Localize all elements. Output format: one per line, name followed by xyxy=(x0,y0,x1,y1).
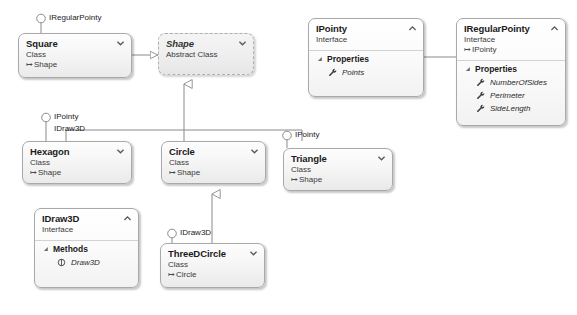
inherits-arrow-icon: ↦ xyxy=(291,175,298,185)
class-box-hexagon-base-label: Shape xyxy=(38,168,61,177)
chevron-up-icon[interactable] xyxy=(123,214,132,223)
interface-box-iregularpointy-title: IRegularPointy xyxy=(464,23,559,34)
class-box-threedcircle-base-label: Circle xyxy=(176,270,196,279)
interface-box-idraw3d-header: IDraw3D Interface xyxy=(35,209,138,240)
class-box-shape-kind: Abstract Class xyxy=(166,50,247,60)
member-row[interactable]: NumberOfSides xyxy=(457,76,565,89)
lollipop-hexagon-ipointy xyxy=(42,113,51,141)
interface-box-ipointy-title: IPointy xyxy=(316,23,417,34)
member-name: SideLength xyxy=(490,103,530,114)
class-box-triangle[interactable]: Triangle Class ↦Shape xyxy=(283,148,393,191)
class-box-square-base-label: Shape xyxy=(34,60,57,69)
class-box-square-title: Square xyxy=(26,38,125,49)
class-box-circle-title: Circle xyxy=(169,146,259,157)
class-box-hexagon[interactable]: Hexagon Class ↦Shape xyxy=(22,141,132,184)
class-box-hexagon-header: Hexagon Class ↦Shape xyxy=(23,142,131,183)
member-row[interactable]: Draw3D xyxy=(35,256,138,269)
class-box-circle-kind: Class xyxy=(169,158,259,168)
interface-box-ipointy[interactable]: IPointy Interface Properties Points xyxy=(308,18,424,97)
group-header-properties-label: Properties xyxy=(327,54,369,64)
method-icon xyxy=(57,258,66,267)
group-header-methods-label: Methods xyxy=(53,244,88,254)
member-name: Perimeter xyxy=(490,90,525,101)
chevron-down-icon[interactable] xyxy=(250,147,259,156)
class-box-shape-title: Shape xyxy=(166,38,247,49)
lollipop-threedcircle-idraw3d xyxy=(168,229,177,243)
interface-box-iregularpointy-header: IRegularPointy Interface ↦IPointy xyxy=(457,19,565,60)
lollipop-label-threedcircle-idraw3d: IDraw3D xyxy=(180,228,211,238)
class-box-circle[interactable]: Circle Class ↦Shape xyxy=(161,141,266,184)
class-box-shape[interactable]: Shape Abstract Class xyxy=(158,33,254,75)
class-box-shape-header: Shape Abstract Class xyxy=(159,34,253,65)
class-diagram-canvas: Shape --> IPointy --> Circle --> xyxy=(0,0,577,315)
member-row[interactable]: Perimeter xyxy=(457,89,565,102)
inherits-arrow-icon: ↦ xyxy=(26,60,33,70)
member-name: NumberOfSides xyxy=(490,77,547,88)
property-wrench-icon xyxy=(476,104,485,113)
interface-box-iregularpointy[interactable]: IRegularPointy Interface ↦IPointy Proper… xyxy=(456,18,566,126)
interface-box-ipointy-kind: Interface xyxy=(316,35,417,45)
member-name: Draw3D xyxy=(71,257,100,268)
class-box-square-kind: Class xyxy=(26,50,125,60)
chevron-down-icon[interactable] xyxy=(116,147,125,156)
class-box-threedcircle-title: ThreeDCircle xyxy=(168,248,258,259)
chevron-down-icon[interactable] xyxy=(249,249,258,258)
lollipop-label-hexagon-idraw3d: IDraw3D xyxy=(54,124,85,134)
chevron-up-icon[interactable] xyxy=(408,24,417,33)
property-wrench-icon xyxy=(476,78,485,87)
group-header-properties-label: Properties xyxy=(475,64,517,74)
lollipop-label-hexagon-ipointy: IPointy xyxy=(54,112,78,122)
class-box-triangle-title: Triangle xyxy=(291,153,386,164)
interface-box-iregularpointy-kind: Interface xyxy=(464,35,559,45)
class-box-hexagon-base: ↦Shape xyxy=(30,168,125,178)
connector-shapes-to-shape xyxy=(66,84,302,141)
class-box-square[interactable]: Square Class ↦Shape xyxy=(18,33,132,78)
lollipop-triangle-ipointy xyxy=(283,131,292,148)
member-row[interactable]: SideLength xyxy=(457,102,565,115)
class-box-threedcircle-header: ThreeDCircle Class ↦Circle xyxy=(161,244,264,285)
inherits-arrow-icon: ↦ xyxy=(169,168,176,178)
class-box-circle-base-label: Shape xyxy=(177,168,200,177)
interface-box-iregularpointy-base: ↦IPointy xyxy=(464,45,559,55)
class-box-circle-base: ↦Shape xyxy=(169,168,259,178)
class-box-hexagon-title: Hexagon xyxy=(30,146,125,157)
lollipop-square-iregularpointy xyxy=(37,14,46,33)
member-name: Points xyxy=(342,67,364,78)
interface-box-ipointy-header: IPointy Interface xyxy=(309,19,423,50)
class-box-square-base: ↦Shape xyxy=(26,60,125,70)
class-box-circle-header: Circle Class ↦Shape xyxy=(162,142,265,183)
property-wrench-icon xyxy=(328,68,337,77)
class-box-triangle-base: ↦Shape xyxy=(291,175,386,185)
chevron-up-icon[interactable] xyxy=(550,24,559,33)
group-header-properties[interactable]: Properties xyxy=(457,61,565,76)
triangle-collapse-icon[interactable] xyxy=(43,246,49,252)
class-box-triangle-kind: Class xyxy=(291,165,386,175)
interface-box-iregularpointy-base-label: IPointy xyxy=(472,45,496,54)
class-box-threedcircle-base: ↦Circle xyxy=(168,270,258,280)
interface-box-idraw3d-title: IDraw3D xyxy=(42,213,132,224)
class-box-triangle-base-label: Shape xyxy=(299,175,322,184)
lollipop-label-square-iregularpointy: IRegularPointy xyxy=(49,13,101,23)
chevron-down-icon[interactable] xyxy=(377,154,386,163)
inherits-arrow-icon: ↦ xyxy=(30,168,37,178)
group-header-methods[interactable]: Methods xyxy=(35,241,138,256)
interface-box-idraw3d-kind: Interface xyxy=(42,225,132,235)
chevron-down-icon[interactable] xyxy=(116,39,125,48)
class-box-threedcircle-kind: Class xyxy=(168,260,258,270)
inherits-arrow-icon: ↦ xyxy=(168,270,175,280)
property-wrench-icon xyxy=(476,91,485,100)
chevron-down-icon[interactable] xyxy=(238,39,247,48)
triangle-collapse-icon[interactable] xyxy=(465,66,471,72)
class-box-hexagon-kind: Class xyxy=(30,158,125,168)
class-box-square-header: Square Class ↦Shape xyxy=(19,34,131,75)
group-header-properties[interactable]: Properties xyxy=(309,51,423,66)
triangle-collapse-icon[interactable] xyxy=(317,56,323,62)
interface-box-idraw3d[interactable]: IDraw3D Interface Methods Draw3D xyxy=(34,208,139,288)
class-box-threedcircle[interactable]: ThreeDCircle Class ↦Circle xyxy=(160,243,265,288)
class-box-triangle-header: Triangle Class ↦Shape xyxy=(284,149,392,190)
lollipop-label-triangle-ipointy: IPointy xyxy=(295,130,319,140)
member-row[interactable]: Points xyxy=(309,66,423,79)
inherits-arrow-icon: ↦ xyxy=(464,45,471,55)
